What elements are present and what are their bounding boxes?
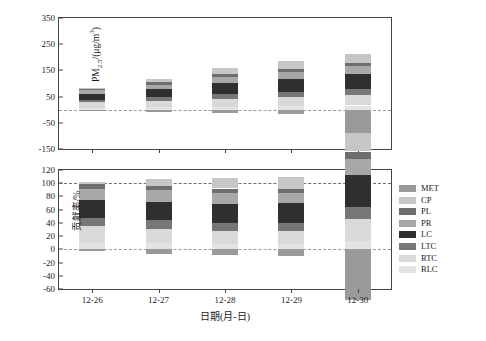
legend-item-ltc[interactable]: LTC <box>399 241 483 252</box>
bar-segment-met <box>79 249 105 250</box>
bar-segment-rtc <box>212 231 238 244</box>
x-tick-mark <box>225 149 226 153</box>
x-tick-mark <box>225 289 226 293</box>
bar-segment-ltc <box>146 220 172 229</box>
y-tick-mark <box>59 96 63 97</box>
bar-segment-lc <box>345 74 371 89</box>
bar-segment-met <box>146 249 172 254</box>
bar-segment-met <box>278 110 304 115</box>
legend-label: RLC <box>421 265 438 274</box>
bar-segment-rlc <box>345 241 371 250</box>
pm25-chart-panel: -150-5050150250350 PM2.5/(μg/m3) <box>58 17 392 150</box>
legend-label: PR <box>421 219 431 228</box>
legend-swatch-rtc <box>399 255 416 262</box>
y-tick-mark <box>59 236 63 237</box>
bar-segment-pl <box>146 186 172 191</box>
y-tick-label: -40 <box>43 271 55 280</box>
legend-label: MET <box>421 184 439 193</box>
bar-segment-rtc <box>278 231 304 244</box>
y-tick-label: 0 <box>51 245 56 254</box>
y-tick-mark <box>59 209 63 210</box>
bar-segment-met <box>345 110 371 134</box>
figure-root: -150-5050150250350 PM2.5/(μg/m3) -60-40-… <box>0 0 486 341</box>
stacked-bar <box>146 18 172 149</box>
legend-swatch-met <box>399 185 416 192</box>
legend-swatch-pr <box>399 220 416 227</box>
y-tick-mark <box>59 262 63 263</box>
pm25-plot-area: -150-5050150250350 <box>59 18 391 149</box>
bar-segment-cp <box>345 133 371 152</box>
bar-segment-pl <box>345 152 371 159</box>
legend-swatch-ltc <box>399 243 416 250</box>
legend-swatch-cp <box>399 197 416 204</box>
bar-segment-ltc <box>278 92 304 97</box>
legend-item-rtc[interactable]: RTC <box>399 253 483 264</box>
y-tick-mark <box>59 170 63 171</box>
y-tick-label: 20 <box>46 232 55 241</box>
legend-item-cp[interactable]: CP <box>399 195 483 206</box>
y-tick-mark <box>59 222 63 223</box>
legend-item-met[interactable]: MET <box>399 183 483 194</box>
x-tick-label: 12-26 <box>82 295 103 305</box>
y-tick-label: -60 <box>43 285 55 294</box>
bar-segment-cp <box>345 54 371 63</box>
bar-segment-lc <box>345 175 371 207</box>
legend-item-lc[interactable]: LC <box>399 229 483 240</box>
stacked-bar <box>278 18 304 149</box>
legend-label: PL <box>421 207 431 216</box>
y-tick-mark <box>59 18 63 19</box>
bar-segment-cp <box>212 178 238 189</box>
x-tick-mark <box>92 289 93 293</box>
contribution-chart-panel: -60-40-2002040608010012012-2612-2712-281… <box>58 169 392 290</box>
stacked-bar <box>278 170 304 289</box>
bar-segment-rtc <box>79 226 105 243</box>
y-tick-label: 40 <box>46 218 55 227</box>
bar-segment-met <box>212 249 238 254</box>
bar-segment-ltc <box>278 223 304 231</box>
x-tick-mark <box>291 149 292 153</box>
bar-segment-pr <box>212 77 238 83</box>
x-tick-mark <box>159 149 160 153</box>
bar-segment-ltc <box>146 97 172 101</box>
legend-swatch-pl <box>399 208 416 215</box>
bar-segment-pr <box>146 85 172 90</box>
stacked-bar <box>212 18 238 149</box>
bar-segment-pr <box>146 190 172 201</box>
y-tick-label: -20 <box>43 258 55 267</box>
legend-item-pr[interactable]: PR <box>399 218 483 229</box>
bar-segment-rtc <box>345 95 371 105</box>
y-tick-mark <box>59 275 63 276</box>
bar-segment-pr <box>278 193 304 203</box>
x-tick-mark <box>291 289 292 293</box>
chart-legend: METCPPLPRLCLTCRTCRLC <box>399 183 483 276</box>
legend-item-rlc[interactable]: RLC <box>399 264 483 275</box>
x-tick-mark <box>92 149 93 153</box>
bar-segment-cp <box>146 179 172 186</box>
bar-segment-rlc <box>79 243 105 250</box>
stacked-bar <box>79 170 105 289</box>
bar-segment-pl <box>212 189 238 194</box>
x-tick-mark <box>159 289 160 293</box>
stacked-bar <box>146 170 172 289</box>
bar-segment-pl <box>79 184 105 189</box>
y-tick-label: 250 <box>42 40 56 49</box>
bar-segment-lc <box>212 204 238 223</box>
x-axis-title: 日期(月-日) <box>58 311 392 322</box>
y-tick-mark <box>59 122 63 123</box>
bar-segment-met <box>212 110 238 114</box>
bar-segment-cp <box>212 68 238 74</box>
bar-segment-ltc <box>345 207 371 219</box>
bar-segment-pl <box>278 69 304 72</box>
bar-segment-met <box>79 110 105 111</box>
y-tick-label: 80 <box>46 192 55 201</box>
y-tick-mark <box>59 70 63 71</box>
bar-segment-pr <box>278 72 304 79</box>
legend-item-pl[interactable]: PL <box>399 206 483 217</box>
x-tick-label: 12-27 <box>148 295 169 305</box>
bar-segment-pl <box>212 74 238 77</box>
bar-segment-lc <box>79 200 105 219</box>
stacked-bar <box>345 170 371 289</box>
bar-segment-ltc <box>345 89 371 95</box>
y-tick-label: 100 <box>42 179 56 188</box>
bar-segment-pl <box>146 82 172 84</box>
